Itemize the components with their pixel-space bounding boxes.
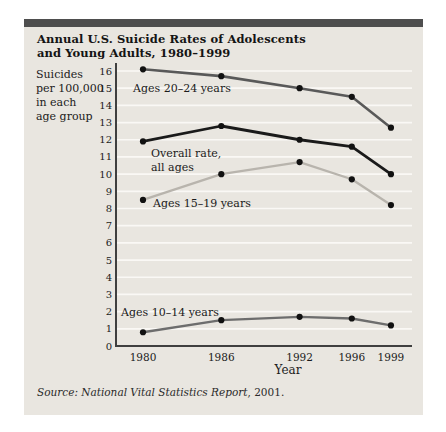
data-point [349, 176, 355, 182]
y-tick-label: 6 [106, 237, 112, 248]
series-label: all ages [151, 161, 194, 174]
y-tick-label: 4 [106, 272, 112, 283]
data-point [297, 85, 303, 91]
y-tick-label: 0 [106, 341, 112, 352]
x-tick-label: 1996 [338, 351, 365, 363]
data-point [218, 123, 224, 129]
y-tick-label: 15 [99, 83, 112, 94]
series-label: Ages 10–14 years [120, 306, 219, 319]
y-tick-label: 16 [99, 66, 112, 77]
data-point [140, 329, 146, 335]
y-tick-label: 5 [106, 255, 112, 266]
data-point [140, 66, 146, 72]
data-point [388, 125, 394, 131]
data-point [218, 171, 224, 177]
y-tick-label: 1 [106, 323, 112, 334]
x-tick-label: 1992 [286, 351, 313, 363]
data-point [140, 138, 146, 144]
y-tick-label: 14 [99, 100, 112, 111]
x-tick-label: 1986 [208, 351, 235, 363]
y-tick-label: 11 [99, 151, 112, 162]
series-label: Ages 15–19 years [152, 197, 251, 210]
y-tick-label: 13 [99, 117, 112, 128]
y-tick-label: 2 [106, 306, 112, 317]
y-tick-label: 10 [99, 169, 112, 180]
data-point [388, 322, 394, 328]
data-point [388, 202, 394, 208]
chart-canvas: 0123456789101112131415161980198619921996… [0, 0, 446, 432]
y-tick-label: 9 [106, 186, 112, 197]
data-point [297, 137, 303, 143]
data-point [218, 73, 224, 79]
data-point [349, 94, 355, 100]
data-point [349, 144, 355, 150]
y-tick-label: 7 [106, 220, 112, 231]
data-point [297, 159, 303, 165]
y-tick-label: 12 [99, 134, 112, 145]
data-point [388, 171, 394, 177]
x-tick-label: 1999 [378, 351, 405, 363]
data-point [297, 314, 303, 320]
data-point [140, 197, 146, 203]
x-tick-label: 1980 [130, 351, 157, 363]
y-tick-label: 8 [106, 203, 112, 214]
series-label: Overall rate, [151, 147, 221, 160]
series-label: Ages 20–24 years [132, 82, 231, 95]
data-point [349, 315, 355, 321]
y-tick-label: 3 [106, 289, 112, 300]
data-point [218, 317, 224, 323]
